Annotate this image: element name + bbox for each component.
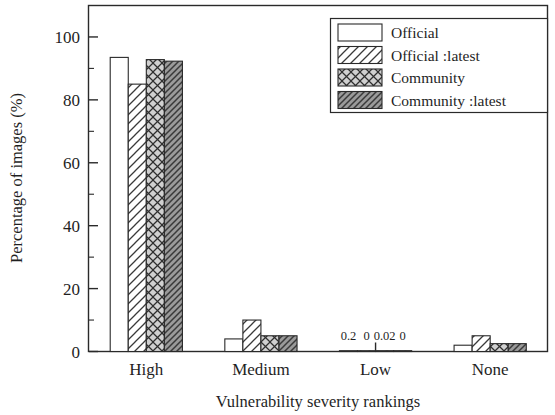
- legend-swatch: [338, 24, 382, 41]
- y-tick-label: 0: [72, 343, 81, 362]
- y-tick-label: 80: [63, 91, 80, 110]
- bar: [339, 351, 357, 352]
- x-category-label: High: [129, 360, 164, 379]
- bar-chart: 020406080100 HighMediumLowNone 0.200.020…: [0, 0, 555, 415]
- bar: [508, 344, 526, 352]
- y-tick-label: 20: [63, 280, 80, 299]
- chart-canvas: 020406080100 HighMediumLowNone 0.200.020…: [0, 0, 555, 415]
- bar-data-label: 0: [363, 329, 369, 343]
- bar-data-label: 0: [400, 329, 406, 343]
- bar-data-label: 0.02: [374, 329, 396, 343]
- bar: [490, 344, 508, 352]
- bar: [394, 351, 412, 352]
- y-axis-title: Percentage of images (%): [7, 93, 26, 263]
- legend-swatch: [338, 69, 382, 86]
- bar: [128, 84, 146, 351]
- x-category-label: Medium: [232, 360, 290, 379]
- x-category-label: Low: [360, 360, 392, 379]
- bar-data-label: 0.2: [341, 329, 357, 343]
- bar: [376, 351, 394, 352]
- legend-label: Official :latest: [391, 47, 481, 64]
- bar: [358, 351, 376, 352]
- y-tick-label: 60: [63, 154, 80, 173]
- x-category-label: None: [472, 360, 509, 379]
- legend-label: Community :latest: [391, 92, 507, 109]
- y-tick-label: 40: [63, 217, 80, 236]
- bar: [225, 339, 243, 352]
- bar: [279, 336, 297, 352]
- bar: [164, 61, 182, 351]
- bar: [110, 57, 128, 351]
- bar: [454, 345, 472, 351]
- bar: [472, 336, 490, 352]
- legend-swatch: [338, 47, 382, 64]
- legend-label: Community: [391, 69, 465, 86]
- bar: [146, 60, 164, 352]
- legend-swatch: [338, 92, 382, 109]
- bar: [243, 320, 261, 351]
- bar: [261, 336, 279, 352]
- legend-label: Official: [391, 24, 439, 41]
- x-axis-title: Vulnerability severity rankings: [216, 392, 420, 411]
- chart-legend: OfficialOfficial :latestCommunityCommuni…: [331, 19, 548, 113]
- y-tick-label: 100: [55, 28, 81, 47]
